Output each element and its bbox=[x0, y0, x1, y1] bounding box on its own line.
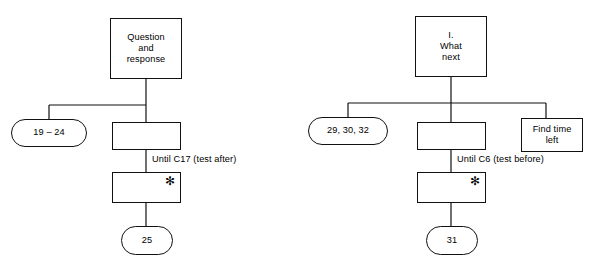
left-root-node[interactable]: Question and response bbox=[110, 18, 182, 79]
left-branch-center-node[interactable] bbox=[112, 122, 181, 150]
right-terminal-node[interactable]: 31 bbox=[426, 226, 478, 255]
left-branch-left-node[interactable]: 19 – 24 bbox=[11, 119, 87, 147]
right-root-label: I. What next bbox=[438, 30, 464, 64]
right-loop-asterisk-icon: ✻ bbox=[470, 175, 480, 187]
right-root-node[interactable]: I. What next bbox=[415, 16, 487, 77]
right-branch-right-label: Find time left bbox=[531, 124, 574, 146]
right-branch-center-node[interactable] bbox=[417, 122, 486, 150]
left-terminal-node[interactable]: 25 bbox=[121, 226, 173, 255]
right-branch-left-label: 29, 30, 32 bbox=[325, 125, 371, 136]
left-terminal-label: 25 bbox=[140, 235, 154, 246]
left-loop-edge-label: Until C17 (test after) bbox=[152, 155, 236, 164]
left-branch-left-label: 19 – 24 bbox=[31, 127, 66, 138]
right-terminal-label: 31 bbox=[445, 235, 459, 246]
right-branch-left-node[interactable]: 29, 30, 32 bbox=[308, 117, 388, 145]
left-root-label: Question and response bbox=[125, 32, 168, 66]
connector-lines bbox=[0, 0, 590, 275]
right-branch-right-node[interactable]: Find time left bbox=[521, 118, 583, 152]
diagram-canvas: Question and response 19 – 24 Until C17 … bbox=[0, 0, 590, 275]
left-loop-asterisk-icon: ✻ bbox=[165, 175, 175, 187]
right-loop-edge-label: Until C6 (test before) bbox=[457, 155, 544, 164]
